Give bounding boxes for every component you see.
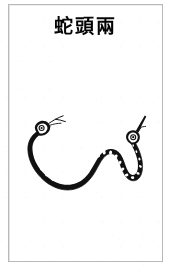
page-title-block: 蛇頭兩	[0, 15, 171, 37]
snake-body-group	[28, 132, 143, 190]
left-head-tongue	[49, 116, 66, 126]
book-page: 蛇頭兩	[0, 0, 171, 275]
left-head-pupil	[41, 127, 43, 129]
right-head-tongue	[136, 116, 147, 133]
page-title: 蛇頭兩	[54, 15, 117, 37]
bottom-margin	[8, 263, 163, 274]
snake-left-head	[35, 116, 66, 136]
snake-drawing-svg	[22, 106, 150, 202]
snake-right-head	[126, 116, 146, 145]
right-head-pupil	[132, 136, 134, 138]
two-headed-snake-illustration	[22, 106, 150, 202]
